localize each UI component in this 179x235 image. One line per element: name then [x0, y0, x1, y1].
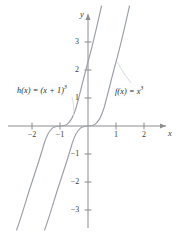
cubic-functions-figure: −2 −1 1 2 3 2 1 −1 −2 −3 y x h(x) = (x +…	[0, 0, 179, 235]
y-tick-label--2: −2	[68, 177, 82, 186]
curve-f	[45, 6, 130, 230]
y-axis-label: y	[80, 9, 84, 19]
x-tick-label-2: 2	[139, 130, 149, 139]
y-tick-label-2: 2	[72, 65, 82, 74]
curve-h	[17, 6, 102, 230]
plot-area	[0, 0, 179, 235]
y-tick-label--3: −3	[68, 205, 82, 214]
y-axis	[85, 14, 90, 228]
function-label-h-exponent: 3	[64, 84, 67, 90]
function-label-h-text: h(x) = (x + 1)	[17, 86, 64, 95]
function-label-f-exponent: 3	[140, 85, 143, 91]
x-tick-label--1: −1	[53, 130, 67, 139]
function-label-f: f(x) = x3	[113, 84, 145, 98]
leader-line-f	[118, 62, 132, 83]
function-label-h: h(x) = (x + 1)3	[15, 83, 69, 97]
y-tick-label-3: 3	[72, 37, 82, 46]
function-label-f-text: f(x) = x	[115, 87, 140, 96]
x-tick-label-1: 1	[111, 130, 121, 139]
y-tick-label--1: −1	[68, 149, 82, 158]
y-tick-label-1: 1	[72, 93, 82, 102]
x-tick-label--2: −2	[25, 130, 39, 139]
x-axis-label: x	[168, 128, 172, 138]
